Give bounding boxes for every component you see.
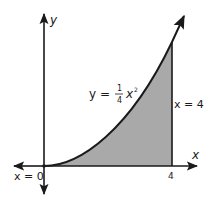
- shaded-region: [44, 42, 172, 166]
- x-tick-label-4: 4: [168, 171, 174, 181]
- right-bound-label: x = 4: [174, 98, 204, 111]
- svg-text:x: x: [125, 87, 134, 101]
- svg-text:2: 2: [134, 86, 138, 93]
- origin-point: [42, 164, 46, 168]
- svg-text:y =: y =: [89, 87, 110, 101]
- curve-equation-label: y = 1 4 x 2: [89, 84, 138, 105]
- left-bound-label: x = 0: [14, 170, 44, 183]
- y-axis-label: y: [49, 13, 58, 27]
- svg-text:1: 1: [117, 84, 122, 93]
- diagram-canvas: y x y = 1 4 x 2 x = 4 x = 0 4: [0, 0, 212, 210]
- x-axis-label: x: [191, 148, 200, 162]
- svg-text:4: 4: [117, 96, 122, 105]
